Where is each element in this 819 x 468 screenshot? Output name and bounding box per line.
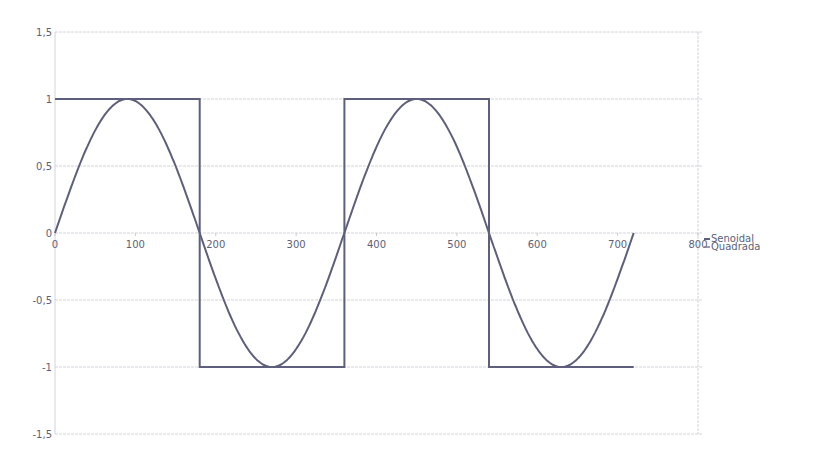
x-tick-label: 500	[447, 239, 466, 250]
legend: Senoidal Quadrada	[704, 233, 760, 252]
x-tick-label: 400	[367, 239, 386, 250]
x-tick-label: 600	[528, 239, 547, 250]
y-tick-label: 1,5	[36, 27, 52, 38]
y-tick-label: -0,5	[32, 295, 52, 306]
x-tick-label: 300	[287, 239, 306, 250]
x-tick-label: 800	[688, 239, 707, 250]
x-tick-labels: 0100200300400500600700800	[52, 239, 708, 250]
y-tick-label: 0	[46, 228, 52, 239]
x-tick-label: 0	[52, 239, 58, 250]
legend-label-quadrada: Quadrada	[711, 241, 760, 252]
chart: 1,510,50-0,5-1-1,5 010020030040050060070…	[0, 0, 819, 468]
y-tick-label: 0,5	[36, 161, 52, 172]
y-tick-label: 1	[46, 94, 52, 105]
x-tick-label: 200	[206, 239, 225, 250]
y-tick-label: -1	[42, 362, 52, 373]
y-tick-label: -1,5	[32, 429, 52, 440]
x-tick-label: 700	[608, 239, 627, 250]
x-tick-label: 100	[126, 239, 145, 250]
y-tick-labels: 1,510,50-0,5-1-1,5	[32, 27, 52, 440]
gridlines	[55, 32, 702, 434]
